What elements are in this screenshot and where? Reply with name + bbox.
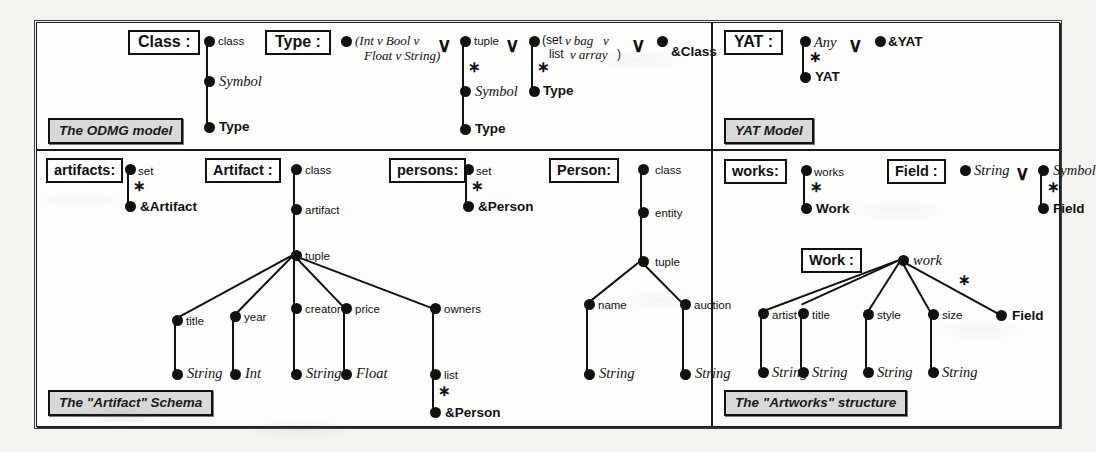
edge-tuple-year [234, 254, 295, 316]
node-works-root [801, 165, 812, 176]
node-year-int [230, 369, 241, 380]
edge-owners-list [432, 308, 434, 374]
node-title-string [172, 369, 183, 380]
figure-frame: Class : class Symbol Type Type : (Int ᴠ … [36, 22, 1060, 427]
type-name-work: Work : [801, 248, 862, 273]
label-yat-leaf: YAT [815, 70, 840, 84]
node-field-price [341, 303, 352, 314]
label-type-1: Type [219, 120, 250, 134]
label-year: year [244, 312, 266, 324]
label-class: class [218, 36, 244, 48]
label-title: title [186, 316, 204, 328]
label-star-persons: ∗ [471, 178, 484, 193]
label-entity: entity [655, 208, 683, 220]
node-field-string [960, 165, 971, 176]
node-work-root [898, 255, 909, 266]
node-ref-artifact [125, 201, 136, 212]
caption-artworks-structure: The "Artworks" structure [724, 390, 907, 416]
label-collection-line2a: list [549, 48, 564, 61]
label-creator: creator [305, 304, 341, 316]
label-owners-ref-person: &Person [445, 406, 501, 420]
label-name-string: String [599, 366, 634, 381]
label-name: name [598, 300, 627, 312]
node-creator-string [291, 369, 302, 380]
label-star-yat: ∗ [809, 49, 822, 64]
node-ref-yat [875, 36, 886, 47]
type-name-persons: persons: [389, 158, 466, 183]
label-field-symbol: Symbol [1053, 163, 1096, 178]
node-owners-ref-person [430, 407, 441, 418]
label-artist: artist [772, 310, 797, 322]
label-star-list: ∗ [438, 383, 451, 398]
node-field-name [584, 299, 595, 310]
label-union-separator-1: ∨ [437, 35, 452, 55]
node-name-string [584, 369, 595, 380]
node-class-root [204, 36, 215, 47]
label-star-tuple: ∗ [468, 59, 481, 74]
node-ref-person [463, 201, 474, 212]
node-type-1 [204, 122, 215, 133]
label-collection-line1b: ᴠ bag [565, 34, 593, 47]
label-work-field-leaf: Field [1012, 309, 1044, 323]
edge-tuple-price [294, 255, 346, 309]
node-person-tuple [638, 256, 649, 267]
type-name-person: Person: [549, 158, 619, 183]
node-artifact-entity [291, 204, 302, 215]
edge-name-string [586, 304, 588, 374]
node-auction-string [680, 369, 691, 380]
label-title-2: title [812, 310, 830, 322]
type-name-artifacts: artifacts: [46, 158, 123, 183]
edge-auction-string [682, 304, 684, 374]
node-artifact-class [291, 164, 302, 175]
label-union-primitives-line1: (Int ᴠ Bool ᴠ [355, 34, 419, 47]
type-name-type: Type : [265, 30, 331, 55]
label-field-leaf: Field [1053, 202, 1085, 216]
edge-person-entity-tuple [640, 212, 642, 261]
node-field-title [172, 315, 183, 326]
label-field-string: String [974, 163, 1009, 178]
node-work-field-leaf [996, 310, 1007, 321]
label-auction: auction [694, 300, 731, 312]
label-title-string: String [187, 366, 222, 381]
label-star-works: ∗ [810, 179, 823, 194]
label-auction-string: String [695, 366, 730, 381]
node-field-style [863, 309, 874, 320]
edge-class-symbol [206, 41, 208, 81]
type-name-yat: YAT : [724, 30, 783, 55]
type-name-field: Field : [887, 159, 946, 184]
node-type-union-primitives [341, 36, 352, 47]
node-field-symbol [1038, 165, 1049, 176]
edge-artifact-class-artifact [293, 169, 295, 209]
node-field-leaf [1038, 203, 1049, 214]
label-ref-person: &Person [478, 200, 534, 214]
edge-tuple-owners [294, 255, 434, 310]
label-union-separator-3: ∨ [631, 35, 646, 55]
node-tuple-type [460, 36, 471, 47]
label-yat-union-separator: ∨ [848, 35, 863, 55]
label-owners: owners [444, 304, 481, 316]
node-style-string [863, 367, 874, 378]
label-list: list [444, 370, 458, 382]
label-title-string-2: String [812, 365, 847, 380]
caption-artifact-schema: The "Artifact" Schema [48, 390, 213, 416]
type-name-works: works: [724, 159, 787, 184]
panel-divider-horizontal-left [37, 149, 711, 151]
label-set-2: set [476, 166, 491, 178]
node-artist-string [758, 367, 769, 378]
label-type-2: Type [475, 122, 506, 136]
node-field-creator [291, 303, 302, 314]
label-size-string: String [942, 365, 977, 380]
node-field-title-2 [798, 308, 809, 319]
label-star-collection: ∗ [537, 59, 550, 74]
edge-style-string [865, 314, 867, 372]
label-set-1: set [138, 166, 153, 178]
label-collection-line2b: ᴠ array [570, 48, 608, 61]
edge-size-string [930, 314, 932, 372]
label-creator-string: String [306, 366, 341, 381]
node-yat-any [800, 36, 811, 47]
label-union-separator-2: ∨ [505, 35, 520, 55]
label-style: style [877, 310, 901, 322]
edge-artifact-tuple [293, 209, 295, 255]
label-person-tuple: tuple [655, 257, 680, 269]
edge-creator-string [293, 308, 295, 374]
